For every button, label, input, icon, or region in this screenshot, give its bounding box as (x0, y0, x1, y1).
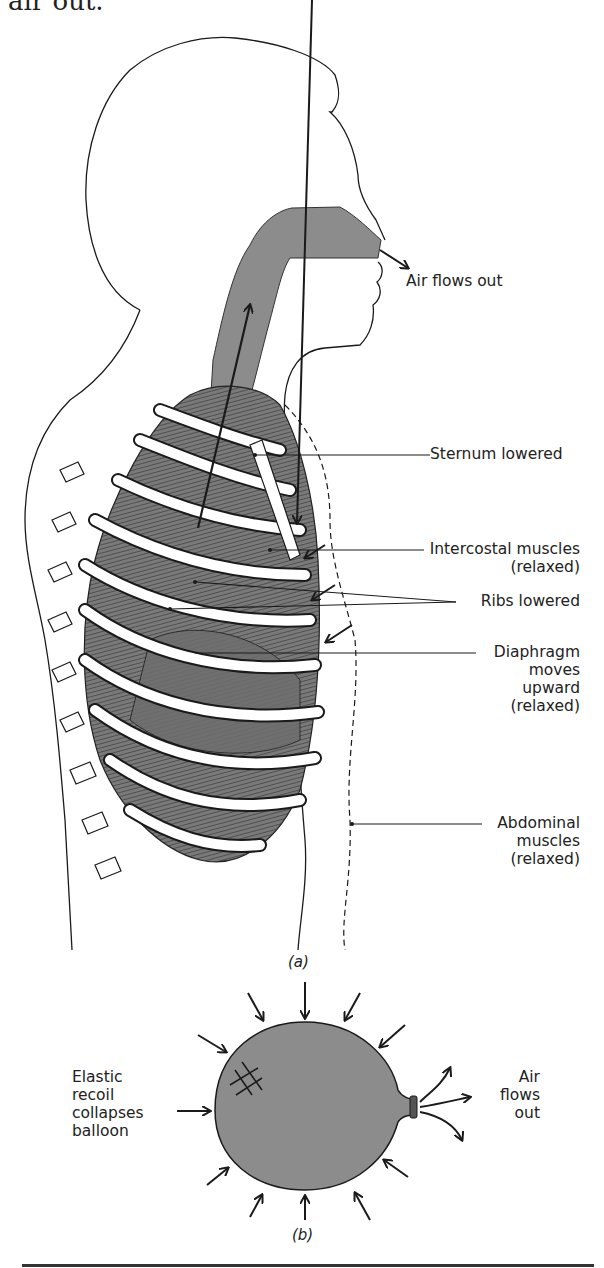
label-sternum-lowered: Sternum lowered (430, 445, 563, 463)
label-diaphragm: Diaphragm moves upward (relaxed) (494, 643, 580, 715)
caption-b: (b) (292, 1226, 313, 1244)
label-elastic-recoil: Elastic recoil collapses balloon (72, 1068, 144, 1140)
label-air-flows-out: Air flows out (406, 272, 503, 290)
balloon-diagram (177, 982, 470, 1220)
bottom-rule (22, 1264, 594, 1267)
caption-a: (a) (288, 953, 309, 971)
label-intercostal-muscles: Intercostal muscles (relaxed) (430, 540, 580, 576)
label-abdominal-muscles: Abdominal muscles (relaxed) (497, 814, 580, 868)
label-air-flows-out-b: Air flows out (492, 1068, 540, 1122)
outflow-arrows (420, 1068, 470, 1140)
label-ribs-lowered: Ribs lowered (481, 592, 580, 610)
airway (210, 207, 381, 410)
balloon-neck (410, 1096, 417, 1118)
balloon (215, 1022, 416, 1190)
nose-airflow-arrow (380, 250, 408, 268)
